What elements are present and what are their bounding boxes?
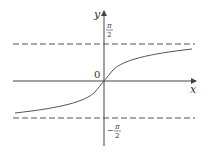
arctan-graph: y x 0 π 2 − π 2 [0, 0, 208, 156]
svg-text:2: 2 [115, 132, 119, 140]
lower-asymptote-label: − π 2 [107, 123, 121, 140]
svg-text:2: 2 [107, 31, 111, 39]
y-axis-label: y [93, 8, 101, 21]
svg-text:π: π [114, 123, 120, 131]
upper-asymptote-label: π 2 [106, 22, 113, 39]
origin-label: 0 [94, 69, 100, 80]
x-axis-label: x [190, 83, 197, 96]
svg-text:π: π [106, 22, 112, 30]
svg-text:−: − [107, 126, 114, 135]
